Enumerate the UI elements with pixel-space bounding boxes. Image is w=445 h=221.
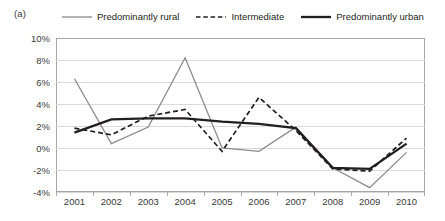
x-tick-label: 2006 <box>239 196 279 207</box>
series-lines <box>56 38 425 192</box>
intermediate-legend-label: Intermediate <box>231 12 284 22</box>
series-line <box>74 118 406 169</box>
rural-legend-swatch <box>62 12 92 22</box>
figure: (a) Predominantly ruralIntermediatePredo… <box>0 0 445 221</box>
x-tick-label: 2002 <box>91 196 131 207</box>
x-axis-labels: 2001200220032004200520062007200820092010 <box>56 196 425 212</box>
x-tick-label: 2007 <box>276 196 316 207</box>
y-tick-label: 8% <box>4 55 50 66</box>
y-axis-labels: -4%-2%0%2%4%6%8%10% <box>0 38 50 192</box>
urban-legend-label: Predominantly urban <box>336 12 424 22</box>
series-line <box>74 97 406 171</box>
x-tick-label: 2008 <box>313 196 353 207</box>
y-tick-label: 0% <box>4 143 50 154</box>
urban-legend: Predominantly urban <box>301 12 424 22</box>
x-tick-label: 2009 <box>350 196 390 207</box>
x-tick-label: 2003 <box>128 196 168 207</box>
y-tick-label: -4% <box>4 187 50 198</box>
plot-area <box>56 38 425 192</box>
y-tick-label: 4% <box>4 99 50 110</box>
x-tick-label: 2010 <box>387 196 427 207</box>
rural-legend-label: Predominantly rural <box>97 12 179 22</box>
panel-label: (a) <box>14 8 26 19</box>
y-tick-label: 6% <box>4 77 50 88</box>
y-tick-label: 2% <box>4 121 50 132</box>
y-tick-label: -2% <box>4 165 50 176</box>
intermediate-legend-swatch <box>196 12 226 22</box>
x-tick-label: 2004 <box>165 196 205 207</box>
x-tick-label: 2005 <box>202 196 242 207</box>
urban-legend-swatch <box>301 12 331 22</box>
rural-legend: Predominantly rural <box>62 12 179 22</box>
intermediate-legend: Intermediate <box>196 12 284 22</box>
y-tick-label: 10% <box>4 33 50 44</box>
chart-legend: Predominantly ruralIntermediatePredomina… <box>62 10 424 24</box>
x-tick-label: 2001 <box>54 196 94 207</box>
